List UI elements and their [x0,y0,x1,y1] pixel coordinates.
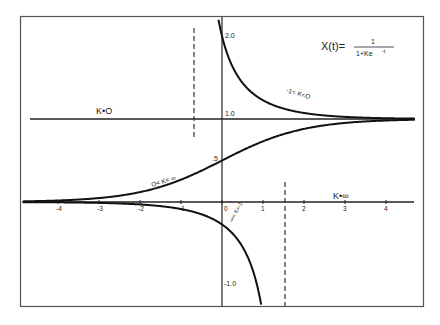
chart: -4-3-2-101234 2.0 1.0 .5 -1.0 K•O -1< K<… [0,0,440,325]
x-tick-label: -2 [138,205,144,212]
y-tick-label-1: 1.0 [225,110,235,117]
equation-lhs: X(t)= [321,40,345,52]
label-k-zero: K•O [96,106,112,116]
y-tick-label-half: .5 [212,155,218,162]
y-tick-label-2: 2.0 [225,32,235,39]
series-neg-one-to-zero-curve [218,20,414,119]
equation-denominator: 1+Ke [356,50,373,57]
x-tick-label: -1 [179,205,185,212]
series-neg-inf-to-neg-one-curve [23,202,261,304]
x-tick-label: 4 [384,205,388,212]
x-tick-label: -3 [97,205,103,212]
x-tick-label: 0 [224,205,228,212]
label-neg-inf-to-neg-one: -∞< K<-1 [228,201,244,223]
x-tick-label: 1 [261,205,265,212]
y-tick-label-neg1: -1.0 [224,280,236,287]
equation-numerator: 1 [371,38,375,45]
equation-exponent: -t [382,48,386,54]
label-k-inf: K•∞ [333,191,349,201]
series-zero-to-inf-curve [23,120,415,202]
equation: X(t)= 1 1+Ke -t [321,38,394,57]
label-neg-one-to-zero: -1< K<O [286,86,312,100]
x-tick-label: 2 [302,205,306,212]
x-tick-label: 3 [343,205,347,212]
x-tick-label: -4 [56,205,62,212]
